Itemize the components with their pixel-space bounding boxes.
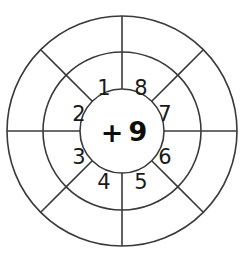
spoke-diagonal-upper-left	[41, 50, 66, 75]
wheel-svg: 1 8 7 6 5 4 3 2 + 9	[0, 0, 246, 258]
spoke-diagonal-upper-right	[178, 50, 203, 75]
sector-number-1: 1	[97, 76, 110, 100]
sector-number-3: 3	[72, 145, 85, 169]
center-operator: +	[101, 117, 124, 148]
sector-number-7: 7	[158, 102, 171, 126]
sector-number-6: 6	[158, 145, 171, 169]
sector-number-8: 8	[134, 76, 147, 100]
spoke-mid-diagonal-upper-left	[66, 75, 92, 101]
sector-number-5: 5	[134, 170, 147, 194]
sector-number-2: 2	[72, 102, 85, 126]
spoke-mid-diagonal-upper-right	[152, 75, 178, 101]
sector-number-4: 4	[97, 170, 110, 194]
number-wheel-figure: 1 8 7 6 5 4 3 2 + 9	[0, 0, 246, 258]
spoke-diagonal-lower-left	[41, 187, 66, 212]
center-number: 9	[129, 116, 148, 147]
spoke-diagonal-lower-right	[178, 187, 203, 212]
